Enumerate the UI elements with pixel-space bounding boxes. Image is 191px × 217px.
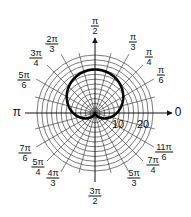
denominator: 6 (161, 153, 166, 162)
denominator: 4 (150, 166, 155, 175)
denominator: 3 (130, 43, 135, 52)
denominator: 4 (35, 168, 40, 177)
angle-label-3pi-over-2: 3π 2 (88, 187, 101, 206)
angle-label-5pi-over-4: 5π 4 (31, 158, 44, 177)
angle-label-pi-over-4: π 4 (145, 48, 153, 67)
denominator: 4 (146, 58, 151, 67)
angle-label-4pi-over-3: 4π 3 (46, 169, 59, 188)
angle-label-5pi-over-3: 5π 3 (127, 169, 140, 188)
denominator: 3 (50, 179, 55, 188)
denominator: 2 (92, 27, 97, 36)
angle-label-0: 0 (175, 105, 182, 119)
angle-label-7pi-over-6: 7π 6 (18, 144, 31, 163)
angle-label-pi-over-6: π 6 (157, 66, 165, 85)
denominator: 2 (92, 197, 97, 206)
angle-label-5pi-over-6: 5π 6 (17, 71, 30, 90)
denominator: 3 (131, 179, 136, 188)
angle-label-3pi-over-4: 3π 4 (29, 49, 42, 68)
r-tick-10: 10 (112, 118, 124, 130)
angle-label-pi-over-2: π 2 (91, 17, 99, 36)
angle-label-2pi-over-3: 2π 3 (45, 35, 58, 54)
denominator: 6 (22, 154, 27, 163)
r-tick-20: 20 (137, 118, 149, 130)
denominator: 4 (33, 59, 38, 68)
angle-label-pi-over-3: π 3 (129, 33, 137, 52)
angle-label-11pi-over-6: 11π 6 (155, 143, 173, 162)
denominator: 6 (158, 76, 163, 85)
denominator: 3 (49, 45, 54, 54)
denominator: 6 (21, 81, 26, 90)
angle-label-pi: π (13, 105, 21, 119)
